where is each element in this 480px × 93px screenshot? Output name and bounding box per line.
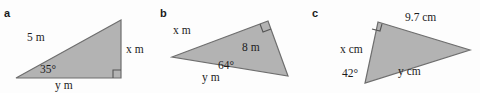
angle-label-a: 35° [40,64,56,76]
side-label-b-base: y m [202,72,220,84]
side-label-b-long: x m [173,25,191,37]
angle-label-b: 64° [218,60,234,72]
side-label-c-base: y cm [398,66,421,78]
figure-b: b x m 8 m y m 64° [150,0,298,93]
triangle-b-graphic [150,0,298,93]
angle-label-c: 42° [342,68,358,80]
part-label-c: c [312,8,318,19]
triangle-c-graphic [298,0,480,93]
side-label-a-hypotenuse: 5 m [27,32,45,44]
side-label-a-opposite: x m [126,44,144,56]
figure-c: c 9.7 cm x cm y cm 42° [298,0,480,93]
side-label-a-adjacent: y m [55,80,73,92]
figure-panel: a 5 m x m y m 35° b x m 8 m y m 64° c 9.… [0,0,480,93]
side-label-c-top: 9.7 cm [405,12,436,24]
figure-a: a 5 m x m y m 35° [0,0,150,93]
triangle-a-shape [16,20,121,78]
part-label-b: b [160,8,167,19]
side-label-c-left: x cm [340,44,363,56]
part-label-a: a [4,8,10,19]
side-label-b-short: 8 m [242,42,260,54]
